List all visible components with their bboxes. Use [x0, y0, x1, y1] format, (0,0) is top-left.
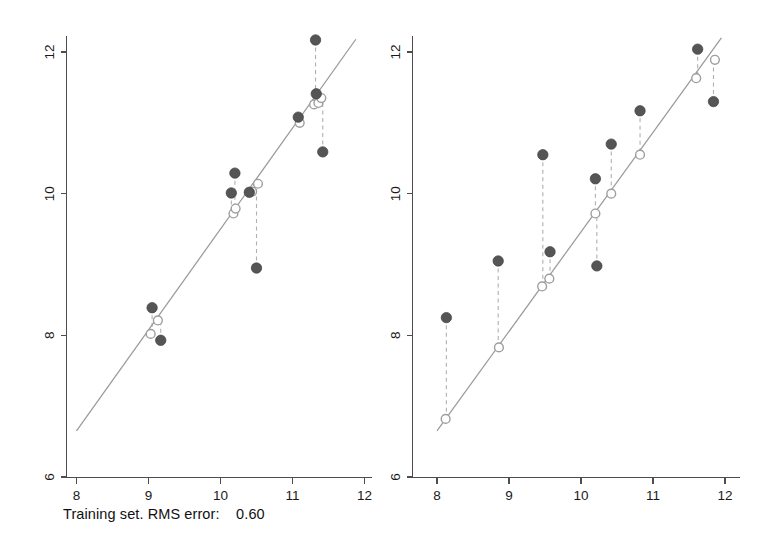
training-predicted-point	[153, 316, 162, 325]
test-predicted-point	[495, 343, 504, 352]
test-fit-line	[437, 38, 721, 431]
training-observed-point	[156, 335, 166, 345]
training-observed-point	[318, 147, 328, 157]
training-axes	[67, 36, 373, 478]
panel-training-set: 681012 89101112 Training set. RMS error:…	[0, 0, 384, 556]
test-y-tick-label: 10	[388, 186, 403, 201]
test-predicted-point	[441, 415, 450, 424]
training-y-tick-labels: 681012	[42, 44, 57, 480]
training-predicted-point	[254, 179, 263, 188]
training-observed-point	[311, 89, 321, 99]
training-predicted-points	[146, 94, 325, 339]
training-observed-point	[230, 168, 240, 178]
test-x-tick-label: 12	[717, 488, 732, 503]
training-y-tick-label: 12	[42, 44, 57, 59]
test-predicted-point	[607, 189, 616, 198]
training-set-plot: 681012 89101112	[0, 0, 384, 556]
test-y-ticks	[407, 52, 413, 477]
test-observed-point	[538, 150, 548, 160]
training-observed-point	[244, 187, 254, 197]
training-y-tick-label: 8	[42, 332, 57, 340]
figure-canvas: 681012 89101112 Training set. RMS error:…	[0, 0, 769, 556]
training-x-ticks	[77, 478, 365, 485]
test-x-tick-label: 10	[573, 488, 588, 503]
test-predicted-point	[692, 74, 701, 83]
test-axes	[413, 36, 741, 478]
training-predicted-point	[146, 330, 155, 339]
training-x-tick-label: 11	[285, 488, 299, 503]
training-x-tick-label: 9	[145, 488, 153, 503]
test-y-tick-label: 6	[388, 473, 403, 481]
test-predicted-point	[545, 274, 554, 283]
training-observed-points	[147, 35, 328, 346]
test-y-tick-labels: 681012	[388, 44, 403, 480]
training-residual-lines	[152, 40, 323, 340]
test-observed-point	[606, 139, 616, 149]
training-x-tick-label: 10	[213, 488, 228, 503]
test-observed-point	[592, 261, 602, 271]
training-y-tick-label: 6	[42, 473, 57, 481]
test-x-ticks	[437, 478, 725, 485]
test-observed-point	[635, 106, 645, 116]
test-predicted-point	[636, 150, 645, 159]
test-x-tick-label: 8	[433, 488, 441, 503]
test-x-tick-label: 11	[646, 488, 660, 503]
test-observed-point	[545, 247, 555, 257]
test-predicted-point	[711, 55, 720, 64]
test-y-tick-label: 12	[388, 44, 403, 59]
test-observed-point	[441, 312, 451, 322]
test-set-plot: 681012 89101112	[385, 0, 769, 556]
test-observed-point	[692, 44, 702, 54]
training-observed-point	[226, 188, 236, 198]
test-x-tick-label: 9	[505, 488, 513, 503]
test-x-tick-labels: 89101112	[433, 488, 732, 503]
test-predicted-point	[591, 209, 600, 218]
training-observed-point	[293, 112, 303, 122]
training-y-tick-label: 10	[42, 186, 57, 201]
test-observed-point	[493, 256, 503, 266]
training-observed-point	[251, 263, 261, 273]
test-observed-point	[590, 174, 600, 184]
test-predicted-point	[538, 282, 547, 291]
training-observed-point	[147, 303, 157, 313]
test-y-tick-label: 8	[388, 332, 403, 340]
training-x-tick-label: 12	[357, 488, 372, 503]
training-x-tick-label: 8	[73, 488, 81, 503]
training-predicted-point	[231, 204, 240, 213]
training-observed-point	[310, 35, 320, 45]
training-y-ticks	[61, 52, 67, 477]
panel-test-set: 681012 89101112 Test set. RMS error: 0.9…	[385, 0, 769, 556]
test-observed-point	[708, 96, 718, 106]
training-set-caption: Training set. RMS error: 0.60	[63, 506, 265, 522]
test-observed-points	[441, 44, 719, 323]
training-x-tick-labels: 89101112	[73, 488, 372, 503]
